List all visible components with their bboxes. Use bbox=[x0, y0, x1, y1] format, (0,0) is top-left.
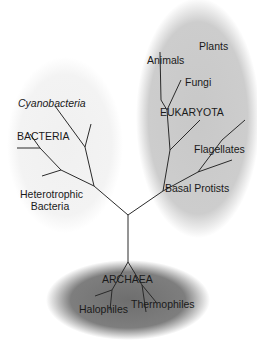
archaea-label: ARCHAEA bbox=[102, 273, 153, 285]
plants-label: Plants bbox=[199, 40, 228, 52]
flagellates-label: Flagellates bbox=[194, 143, 245, 155]
heterotrophic-line2: Bacteria bbox=[20, 200, 80, 212]
heterotrophic-bacteria-label: Heterotrophic Bacteria bbox=[20, 188, 80, 212]
heterotrophic-line1: Heterotrophic bbox=[20, 188, 80, 200]
thermophiles-label: Thermophiles bbox=[131, 298, 195, 310]
basal-protists-label: Basal Protists bbox=[165, 182, 229, 194]
eukaryota-label: EUKARYOTA bbox=[160, 106, 224, 118]
bacteria-label: BACTERIA bbox=[17, 130, 70, 142]
eukaryota-region bbox=[136, 0, 257, 238]
animals-label: Animals bbox=[147, 54, 184, 66]
cyanobacteria-label: Cyanobacteria bbox=[18, 97, 86, 109]
fungi-label: Fungi bbox=[185, 76, 211, 88]
halophiles-label: Halophiles bbox=[79, 303, 128, 315]
